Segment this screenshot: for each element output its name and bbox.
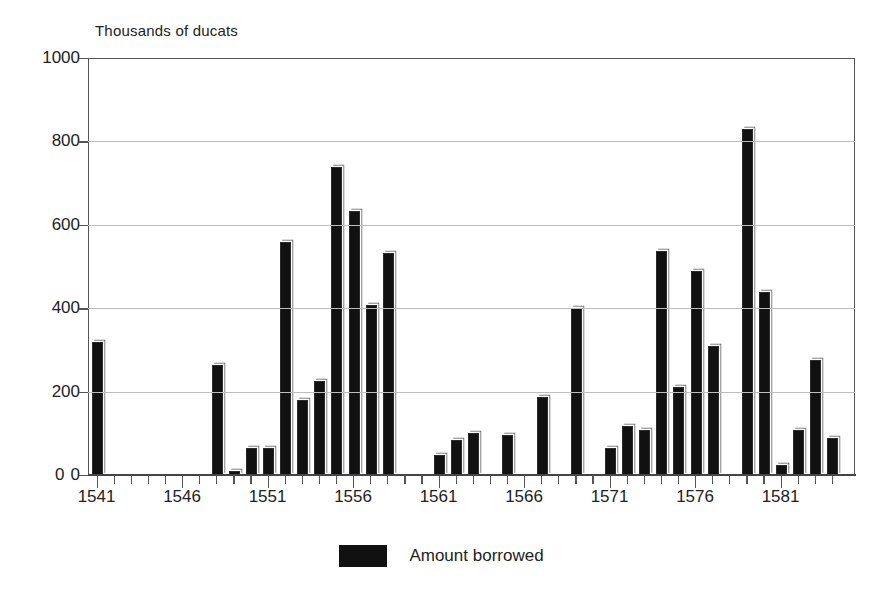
x-axis-tick-label: 1551 xyxy=(249,487,287,507)
legend-label-amount-borrowed: Amount borrowed xyxy=(409,546,543,566)
y-axis-tick-label: 200 xyxy=(22,382,80,402)
gridline-200 xyxy=(88,392,855,393)
y-axis-unit-label: Thousands of ducats xyxy=(95,22,238,39)
x-axis-ticks xyxy=(88,475,856,485)
bar-series-amount-borrowed xyxy=(89,59,854,475)
bar xyxy=(297,400,308,475)
x-axis-tick-minor xyxy=(148,475,149,484)
x-axis-tick-minor xyxy=(746,475,747,484)
x-axis-tick-minor xyxy=(507,475,508,484)
x-axis-tick-minor xyxy=(763,475,764,484)
bar xyxy=(468,433,479,475)
x-axis-tick-minor xyxy=(336,475,337,484)
x-axis-tick-label: 1546 xyxy=(163,487,201,507)
y-axis-tick-label: 800 xyxy=(22,131,80,151)
x-axis-tick-minor xyxy=(285,475,286,484)
bar xyxy=(383,253,394,475)
x-axis-tick-minor xyxy=(114,475,115,484)
bar xyxy=(708,346,719,475)
y-axis-tick-label: 400 xyxy=(22,298,80,318)
bar xyxy=(537,397,548,475)
gridline-800 xyxy=(88,141,855,142)
x-axis-tick-label: 1556 xyxy=(334,487,372,507)
y-axis-tick-mark xyxy=(79,141,88,142)
x-axis-tick-minor xyxy=(832,475,833,484)
x-axis-tick-minor xyxy=(541,475,542,484)
y-axis-tick-mark xyxy=(79,58,88,59)
chart-root: Thousands of ducats 02004006008001000 15… xyxy=(0,0,883,612)
y-axis-tick-label: 600 xyxy=(22,215,80,235)
x-axis-tick-minor xyxy=(387,475,388,484)
x-axis-tick-minor xyxy=(199,475,200,484)
bar xyxy=(639,430,650,475)
x-axis-tick-minor xyxy=(592,475,593,484)
bar xyxy=(656,251,667,475)
bar xyxy=(793,430,804,475)
x-axis-tick-minor xyxy=(815,475,816,484)
bar xyxy=(280,242,291,475)
bar xyxy=(246,448,257,475)
y-axis-tick-mark xyxy=(79,392,88,393)
x-axis-tick-minor xyxy=(165,475,166,484)
x-axis-tick-minor xyxy=(456,475,457,484)
bar xyxy=(827,438,838,475)
x-axis-tick-minor xyxy=(250,475,251,484)
x-axis-tick-minor xyxy=(575,475,576,484)
y-axis-labels: 02004006008001000 xyxy=(8,0,80,612)
x-axis-tick-label: 1561 xyxy=(420,487,458,507)
bar xyxy=(331,167,342,475)
legend-swatch-amount-borrowed xyxy=(339,545,387,567)
x-axis-tick-minor xyxy=(421,475,422,484)
bar xyxy=(434,455,445,475)
x-axis-labels: 154115461551155615611566157115761581 xyxy=(0,487,883,515)
x-axis-tick-label: 1581 xyxy=(762,487,800,507)
y-axis-tick-label: 0 xyxy=(22,465,80,485)
x-axis-tick-minor xyxy=(233,475,234,484)
x-axis-tick-minor xyxy=(678,475,679,484)
y-axis-zero-label: 0 xyxy=(55,465,64,485)
bar xyxy=(451,440,462,475)
x-axis-tick-minor xyxy=(729,475,730,484)
x-axis-tick-minor xyxy=(473,475,474,484)
x-axis-tick-minor xyxy=(644,475,645,484)
x-axis-tick-label: 1566 xyxy=(505,487,543,507)
bar xyxy=(366,305,377,475)
bar xyxy=(742,129,753,475)
plot-area xyxy=(88,58,855,475)
bar xyxy=(349,211,360,475)
y-axis-tick-mark xyxy=(79,308,88,309)
bar xyxy=(314,381,325,475)
bar xyxy=(810,360,821,475)
x-axis-tick-minor xyxy=(558,475,559,484)
gridline-400 xyxy=(88,308,855,309)
x-axis-tick-minor xyxy=(319,475,320,484)
x-axis-tick-minor xyxy=(798,475,799,484)
bar xyxy=(212,365,223,476)
bar xyxy=(502,435,513,475)
bar xyxy=(673,387,684,475)
x-axis-tick-minor xyxy=(216,475,217,484)
bar xyxy=(605,448,616,475)
x-axis-tick-minor xyxy=(302,475,303,484)
y-axis-tick-label: 1000 xyxy=(22,48,80,68)
bar xyxy=(759,292,770,475)
x-axis-tick-label: 1576 xyxy=(676,487,714,507)
x-axis-tick-minor xyxy=(404,475,405,484)
bar xyxy=(622,426,633,475)
y-axis-tick-mark xyxy=(79,225,88,226)
x-axis-tick-minor xyxy=(370,475,371,484)
bar xyxy=(263,448,274,475)
bar xyxy=(92,342,103,475)
y-axis-tick-mark xyxy=(79,475,88,476)
x-axis-tick-minor xyxy=(661,475,662,484)
x-axis-tick-label: 1541 xyxy=(78,487,116,507)
x-axis-tick-label: 1571 xyxy=(591,487,629,507)
bar xyxy=(691,271,702,475)
x-axis-tick-minor xyxy=(712,475,713,484)
gridline-600 xyxy=(88,225,855,226)
legend: Amount borrowed xyxy=(0,545,883,567)
x-axis-tick-minor xyxy=(490,475,491,484)
x-axis-tick-minor xyxy=(627,475,628,484)
x-axis-tick-minor xyxy=(131,475,132,484)
